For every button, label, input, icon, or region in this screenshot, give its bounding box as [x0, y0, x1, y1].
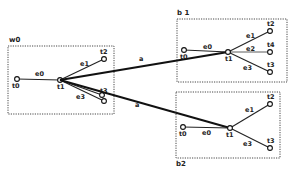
box-b2-border — [176, 92, 280, 158]
link-w0-b2 — [60, 80, 230, 128]
b2-node-t0-label: t0 — [179, 130, 187, 138]
b1-node-t1 — [226, 50, 231, 55]
b2-node-t2-label: t2 — [267, 93, 275, 101]
b2-node-t1-label: t1 — [226, 131, 234, 139]
b1-edge-e3-label: e3 — [243, 64, 252, 72]
w0-node-t0 — [15, 77, 20, 82]
b1-edge-e2-label: e2 — [246, 45, 255, 53]
w0-node-t2 — [102, 57, 107, 62]
b2-node-t2 — [268, 102, 273, 107]
b1-node-t4-label: t4 — [267, 41, 275, 49]
b2-edge-e3-label: e3 — [243, 140, 252, 148]
w0-edge-e3-label: e3 — [76, 93, 85, 101]
b1-node-t2-label: t2 — [267, 20, 275, 28]
b1-edge-e0-label: e0 — [203, 43, 212, 51]
b1-node-t3-label: t3 — [267, 61, 275, 69]
b2-node-t0 — [181, 125, 186, 130]
w0-edge-e0-label: e0 — [35, 70, 44, 78]
b2-node-t1 — [228, 126, 233, 131]
box-w0-label: w0 — [9, 36, 20, 44]
link-w0-b2-label: a — [135, 101, 139, 109]
b1-node-t4 — [268, 50, 273, 55]
b1-edge-e1-label: e1 — [246, 32, 255, 40]
b2-edge-e0-label: e0 — [202, 129, 211, 137]
b1-node-t2 — [268, 29, 273, 34]
w0-node-t1-label: t1 — [57, 83, 65, 91]
w0-edge-e0 — [17, 79, 60, 80]
diagram-canvas: w0 e0 e1 e3 t0 t1 t2 t3 a a b 1 e0 e1 e2 — [0, 0, 288, 170]
b2-node-t3-label: t3 — [267, 137, 275, 145]
box-b2: b2 e0 e1 e3 t0 t1 t2 t3 — [176, 92, 280, 168]
w0-node-t2-label: t2 — [100, 48, 108, 56]
b1-node-t1-label: t1 — [225, 55, 233, 63]
b1-node-t0-label: t0 — [180, 53, 188, 61]
w0-node-t0-label: t0 — [12, 82, 20, 90]
box-b1: b 1 e0 e1 e2 e3 t0 t1 t2 t4 t3 — [177, 9, 287, 82]
b2-edge-e0 — [183, 127, 230, 128]
b1-node-t3 — [268, 70, 273, 75]
box-b1-label: b 1 — [177, 9, 189, 17]
b1-node-t0 — [182, 48, 187, 53]
box-b2-label: b2 — [176, 160, 186, 168]
w0-edge-e1-label: e1 — [80, 60, 89, 68]
link-w0-b1-label: a — [139, 55, 143, 63]
b2-edge-e1-label: e1 — [245, 106, 254, 114]
b2-node-t3 — [268, 146, 273, 151]
box-w0: w0 e0 e1 e3 t0 t1 t2 t3 — [8, 36, 114, 114]
w0-node-t3-dup — [102, 99, 107, 104]
